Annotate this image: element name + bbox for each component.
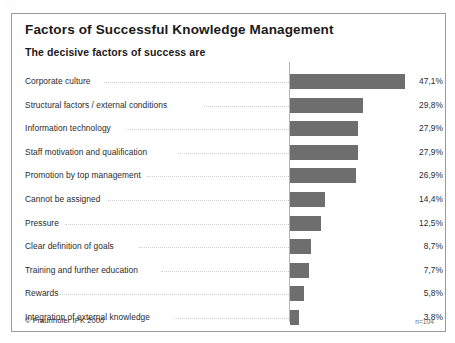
leader-line	[104, 82, 289, 84]
chart-panel: Factors of Successful Knowledge Manageme…	[11, 13, 446, 332]
bar-category-label: Clear definition of goals	[25, 241, 114, 251]
bar-value-label: 14,4%	[411, 194, 443, 204]
bar	[290, 121, 358, 136]
leader-line	[139, 247, 289, 249]
chart-title: Factors of Successful Knowledge Manageme…	[25, 22, 334, 37]
bar	[290, 168, 356, 183]
bar	[290, 216, 321, 231]
bar-row: Staff motivation and qualification27,9%	[12, 142, 445, 165]
bar-category-label: Corporate culture	[25, 76, 91, 86]
bar	[290, 239, 311, 254]
bar	[290, 74, 405, 89]
leader-line	[204, 106, 289, 108]
bar-row: Training and further education7,7%	[12, 260, 445, 283]
scan-artifact: ···	[6, 1, 16, 8]
bar-row: Information technology27,9%	[12, 118, 445, 141]
bar-row: Structural factors / external conditions…	[12, 95, 445, 118]
bar-row: Corporate culture47,1%	[12, 71, 445, 94]
leader-line	[161, 271, 290, 273]
leader-line	[108, 200, 289, 202]
copyright-note: © Fraunhofer IPK 2000	[25, 316, 104, 325]
bar-value-label: 47,1%	[411, 76, 443, 86]
bar-category-label: Information technology	[25, 123, 111, 133]
bar-category-label: Promotion by top management	[25, 170, 141, 180]
bar-value-label: 26,9%	[411, 170, 443, 180]
leader-line	[147, 176, 289, 178]
chart-inner: Factors of Successful Knowledge Manageme…	[12, 14, 445, 331]
bar-value-label: 5,8%	[411, 288, 443, 298]
bar	[290, 145, 358, 160]
bar-row: Clear definition of goals8,7%	[12, 236, 445, 259]
bar-value-label: 7,7%	[411, 265, 443, 275]
bar-category-label: Training and further education	[25, 265, 138, 275]
bar	[290, 263, 309, 278]
sample-size-note: n=104	[415, 318, 434, 325]
leader-line	[65, 224, 289, 226]
bar-value-label: 29,8%	[411, 100, 443, 110]
bar	[290, 286, 304, 301]
leader-line	[126, 129, 289, 131]
bar-row: Rewards5,8%	[12, 283, 445, 306]
bar-row: Cannot be assigned14,4%	[12, 189, 445, 212]
bar-category-label: Structural factors / external conditions	[25, 100, 167, 110]
bar	[290, 310, 299, 325]
leader-line	[178, 153, 289, 155]
bar-category-label: Pressure	[25, 218, 59, 228]
bar-row: Pressure12,5%	[12, 213, 445, 236]
bar-value-label: 27,9%	[411, 123, 443, 133]
bar	[290, 192, 325, 207]
bar	[290, 98, 363, 113]
bar-value-label: 27,9%	[411, 147, 443, 157]
bar-row: Promotion by top management26,9%	[12, 165, 445, 188]
bar-category-label: Staff motivation and qualification	[25, 147, 147, 157]
bar-value-label: 12,5%	[411, 218, 443, 228]
leader-line	[60, 294, 289, 296]
bar-chart-plot: Corporate culture47,1%Structural factors…	[12, 62, 445, 330]
bar-category-label: Rewards	[25, 288, 58, 298]
bar-category-label: Cannot be assigned	[25, 194, 100, 204]
leader-line	[174, 318, 289, 320]
chart-subtitle: The decisive factors of success are	[25, 46, 205, 58]
bar-value-label: 8,7%	[411, 241, 443, 251]
